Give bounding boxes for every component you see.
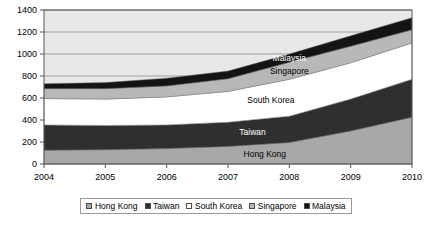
y-axis-tick-label: 400 [22, 115, 37, 125]
x-axis-tick-label: 2009 [341, 172, 361, 182]
legend-item-label: Hong Kong [95, 202, 138, 211]
legend-item-label: Malaysia [312, 202, 346, 211]
y-axis-tick-label: 1000 [17, 49, 37, 59]
x-axis-tick-label: 2004 [34, 172, 54, 182]
legend-item[interactable]: South Korea [186, 202, 242, 211]
series-annotation-taiwan: Taiwan [239, 127, 266, 137]
legend-item-label: South Korea [195, 202, 242, 211]
x-axis-tick-label: 2007 [218, 172, 238, 182]
legend-swatch-icon [145, 203, 151, 209]
legend-item[interactable]: Malaysia [304, 202, 346, 211]
y-axis-tick-label: 0 [32, 159, 37, 169]
legend-item[interactable]: Hong Kong [86, 202, 137, 211]
legend-item-label: Taiwan [153, 202, 179, 211]
series-annotation-south-korea: South Korea [247, 95, 295, 105]
x-axis-tick-label: 2006 [157, 172, 177, 182]
y-axis-tick-label: 600 [22, 93, 37, 103]
y-axis-tick-label: 200 [22, 137, 37, 147]
x-axis-tick-label: 2005 [95, 172, 115, 182]
x-axis-tick-label: 2010 [402, 172, 422, 182]
series-annotation-singapore: Singapore [270, 66, 309, 76]
legend-item[interactable]: Taiwan [145, 202, 180, 211]
x-axis-tick-label: 2008 [279, 172, 299, 182]
y-axis-tick-label: 1200 [17, 27, 37, 37]
series-annotation-malaysia: Malaysia [273, 53, 307, 63]
legend-swatch-icon [304, 203, 310, 209]
legend-swatch-icon [86, 203, 92, 209]
legend-item-label: Singapore [258, 202, 297, 211]
y-axis-tick-label: 800 [22, 71, 37, 81]
legend-swatch-icon [186, 203, 192, 209]
chart-legend: Hong KongTaiwanSouth KoreaSingaporeMalay… [80, 198, 352, 214]
y-axis-tick-label: 1400 [17, 5, 37, 15]
stacked-area-chart: 0200400600800100012001400200420052006200… [0, 0, 433, 229]
chart-canvas: 0200400600800100012001400200420052006200… [0, 0, 433, 229]
series-annotation-hong-kong: Hong Kong [244, 149, 287, 159]
legend-item[interactable]: Singapore [249, 202, 296, 211]
legend-swatch-icon [249, 203, 255, 209]
